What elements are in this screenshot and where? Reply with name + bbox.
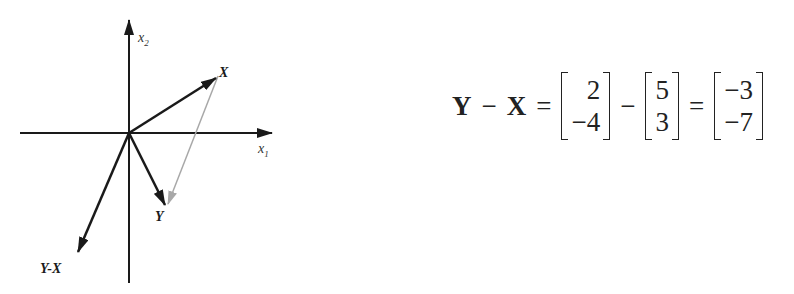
matrix-cell: −7	[720, 106, 757, 138]
vector-x-label: X	[218, 65, 229, 80]
matrix-cell: −3	[720, 74, 757, 106]
matrix-result: −3 −7	[714, 72, 763, 140]
vector-diagram: x2 x1 X Y Y-X	[0, 0, 300, 294]
eq-equals: =	[689, 91, 704, 122]
vector-x-to-y	[168, 76, 218, 204]
eq-minus: −	[620, 91, 635, 122]
eq-equals: =	[536, 91, 551, 122]
vector-y-minus-x	[78, 133, 129, 252]
matrix-cell: 2	[583, 74, 605, 106]
eq-minus: −	[482, 91, 497, 122]
eq-y: Y	[452, 91, 472, 122]
eq-x: X	[507, 91, 527, 122]
vector-subtraction-equation: Y − X = 2 −4 − 5 3 = −3 −7	[452, 72, 763, 140]
vector-x	[129, 78, 216, 133]
matrix-y: 2 −4	[561, 72, 610, 140]
x1-axis-label: x1	[257, 141, 269, 159]
vector-y-label: Y	[155, 209, 165, 224]
matrix-x: 5 3	[645, 72, 679, 140]
matrix-cell: 5	[651, 74, 673, 106]
matrix-cell: −4	[567, 106, 604, 138]
matrix-cell: 3	[651, 106, 673, 138]
vector-y	[129, 133, 165, 205]
x2-axis-label: x2	[137, 30, 149, 48]
vector-y-minus-x-label: Y-X	[40, 261, 62, 276]
